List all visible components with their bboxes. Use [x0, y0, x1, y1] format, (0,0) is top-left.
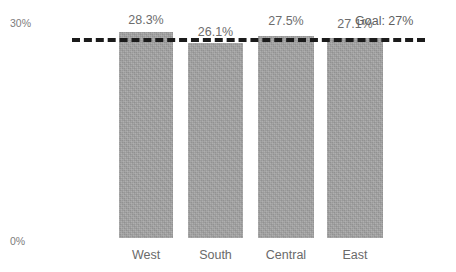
bar-east[interactable] — [327, 38, 383, 238]
value-label-central: 27.5% — [258, 14, 314, 28]
bar-chart: 30% 0% 28.3% 26.1% 27.5% 27.1% Goal: 27%… — [0, 0, 456, 272]
y-axis-tick-bottom: 0% — [10, 235, 25, 247]
category-label-west: West — [119, 248, 173, 262]
value-label-west: 28.3% — [119, 13, 173, 27]
bar-south[interactable] — [188, 43, 243, 238]
goal-reference-line — [72, 38, 425, 42]
category-label-east: East — [327, 248, 383, 262]
bar-central[interactable] — [258, 36, 314, 238]
goal-reference-label: Goal: 27% — [355, 14, 413, 28]
bar-west[interactable] — [119, 32, 173, 238]
plot-area: 30% 0% 28.3% 26.1% 27.5% 27.1% Goal: 27%… — [0, 0, 456, 272]
value-label-south: 26.1% — [188, 25, 243, 39]
y-axis-tick-top: 30% — [10, 17, 31, 29]
category-label-central: Central — [258, 248, 314, 262]
category-label-south: South — [188, 248, 243, 262]
